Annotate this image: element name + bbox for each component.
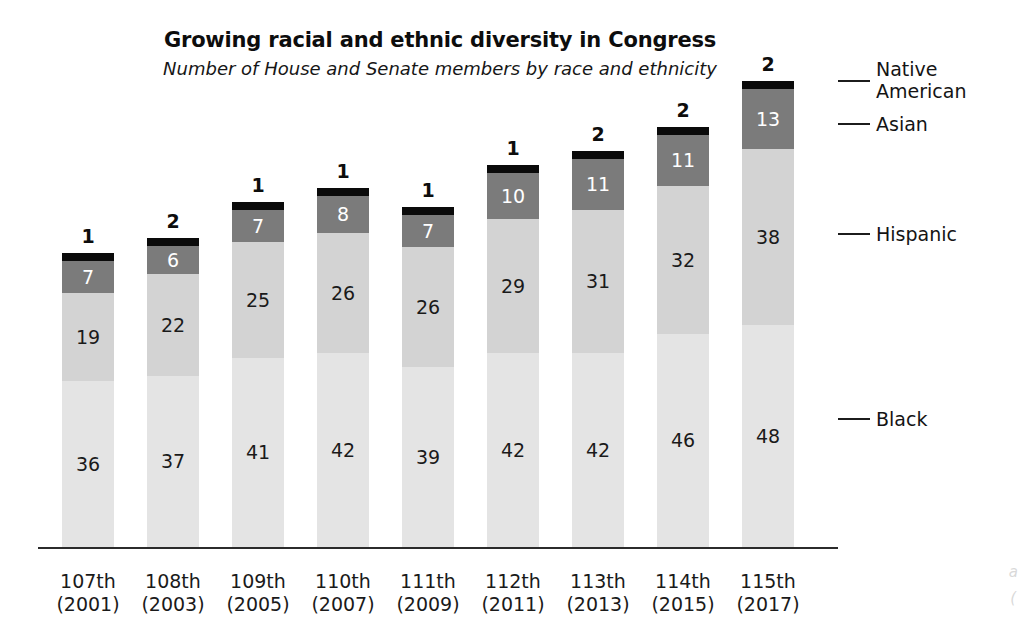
bar-segment-value-black: 42 <box>501 441 525 460</box>
bar-segment-value-native-american: 2 <box>742 53 794 75</box>
bar-segment-black: 41 <box>232 358 284 547</box>
bar-segment-hispanic: 25 <box>232 242 284 358</box>
bar-segment-value-hispanic: 26 <box>331 284 355 303</box>
bar-group: 82642 <box>317 188 369 547</box>
bar-segment-hispanic: 32 <box>657 186 709 334</box>
artifact-line-2: ( <box>1010 589 1016 607</box>
x-axis-line <box>38 547 838 549</box>
bar-segment-native-american <box>317 188 369 196</box>
bar-segment-hispanic: 19 <box>62 293 114 381</box>
legend-label-black: Black <box>876 408 927 430</box>
artifact-line-1: a <box>1009 563 1018 581</box>
bar-segment-value-asian: 10 <box>501 187 525 206</box>
bar-group: 72639 <box>402 207 454 547</box>
bar-segment-value-black: 41 <box>246 443 270 462</box>
bar-segment-hispanic: 38 <box>742 149 794 325</box>
bar-segment-value-asian: 7 <box>82 268 94 287</box>
bar-segment-value-native-american: 1 <box>317 160 369 182</box>
legend-label-asian: Asian <box>876 113 928 135</box>
bar-segment-value-asian: 7 <box>422 222 434 241</box>
bar-segment-value-hispanic: 29 <box>501 277 525 296</box>
bar-segment-value-native-american: 2 <box>657 99 709 121</box>
bar-segment-value-black: 48 <box>756 427 780 446</box>
bar-segment-native-american <box>657 127 709 135</box>
bar-segment-asian: 7 <box>232 210 284 242</box>
bar-segment-value-hispanic: 19 <box>76 328 100 347</box>
bar-segment-value-asian: 6 <box>167 251 179 270</box>
bar-segment-black: 42 <box>317 353 369 547</box>
bar-segment-black: 39 <box>402 367 454 547</box>
bar-segment-value-native-american: 1 <box>62 225 114 247</box>
bar-segment-black: 42 <box>572 353 624 547</box>
bar-segment-hispanic: 26 <box>317 233 369 353</box>
bar-segment-value-asian: 8 <box>337 205 349 224</box>
bar-segment-value-asian: 11 <box>671 151 695 170</box>
bar-segment-asian: 11 <box>572 159 624 210</box>
bar-segment-native-american <box>742 81 794 89</box>
bar-segment-asian: 7 <box>402 215 454 247</box>
bar-segment-native-american <box>572 151 624 159</box>
bar-group: 113246 <box>657 127 709 547</box>
bar-segment-value-black: 36 <box>76 455 100 474</box>
bar-group: 71936 <box>62 253 114 547</box>
bar-segment-value-native-american: 1 <box>232 174 284 196</box>
bar-segment-value-black: 42 <box>586 441 610 460</box>
page-edge-artifact: a ( <box>990 555 1020 630</box>
bar-group: 133848 <box>742 81 794 547</box>
bar-segment-black: 42 <box>487 353 539 547</box>
stacked-bar-plot: 719361107th(2001)622372108th(2003)725411… <box>0 0 1020 630</box>
bar-segment-black: 37 <box>147 376 199 547</box>
x-axis-tick-label: 115th(2017) <box>709 570 827 616</box>
bar-segment-hispanic: 26 <box>402 247 454 367</box>
bar-segment-asian: 7 <box>62 261 114 293</box>
bar-segment-value-asian: 13 <box>756 110 780 129</box>
bar-segment-asian: 8 <box>317 196 369 233</box>
bar-segment-value-native-american: 2 <box>147 210 199 232</box>
bar-group: 72541 <box>232 202 284 547</box>
legend-leader-native-american <box>838 80 870 82</box>
bar-segment-asian: 10 <box>487 173 539 219</box>
bar-segment-native-american <box>147 238 199 246</box>
legend-label-hispanic: Hispanic <box>876 223 957 245</box>
bar-segment-value-asian: 7 <box>252 217 264 236</box>
bar-segment-value-native-american: 2 <box>572 123 624 145</box>
bar-segment-value-hispanic: 26 <box>416 298 440 317</box>
bar-segment-hispanic: 31 <box>572 210 624 353</box>
bar-segment-black: 48 <box>742 325 794 547</box>
bar-segment-native-american <box>402 207 454 215</box>
legend-label-native-american: Native American <box>876 58 966 103</box>
bar-segment-asian: 13 <box>742 89 794 149</box>
legend-leader-black <box>838 418 870 420</box>
bar-segment-black: 36 <box>62 381 114 547</box>
bar-segment-asian: 11 <box>657 135 709 186</box>
bar-segment-value-asian: 11 <box>586 175 610 194</box>
bar-group: 62237 <box>147 238 199 547</box>
bar-segment-native-american <box>232 202 284 210</box>
bar-segment-value-hispanic: 25 <box>246 291 270 310</box>
bar-segment-native-american <box>62 253 114 261</box>
bar-segment-black: 46 <box>657 334 709 547</box>
chart-page: Growing racial and ethnic diversity in C… <box>0 0 1020 630</box>
bar-segment-value-hispanic: 22 <box>161 316 185 335</box>
x-axis-tick-line-2: (2017) <box>709 593 827 616</box>
bar-segment-value-black: 37 <box>161 452 185 471</box>
bar-segment-value-black: 42 <box>331 441 355 460</box>
legend-leader-asian <box>838 123 870 125</box>
bar-segment-value-hispanic: 32 <box>671 251 695 270</box>
bar-segment-native-american <box>487 165 539 173</box>
bar-segment-value-black: 46 <box>671 431 695 450</box>
bar-segment-hispanic: 29 <box>487 219 539 353</box>
bar-segment-value-hispanic: 31 <box>586 272 610 291</box>
bar-segment-asian: 6 <box>147 246 199 274</box>
bar-segment-value-black: 39 <box>416 448 440 467</box>
x-axis-tick-line-1: 115th <box>709 570 827 593</box>
bar-group: 113142 <box>572 151 624 547</box>
bar-segment-value-hispanic: 38 <box>756 228 780 247</box>
bar-segment-value-native-american: 1 <box>402 179 454 201</box>
legend-leader-hispanic <box>838 233 870 235</box>
bar-segment-hispanic: 22 <box>147 274 199 376</box>
bar-group: 102942 <box>487 165 539 547</box>
bar-segment-value-native-american: 1 <box>487 137 539 159</box>
